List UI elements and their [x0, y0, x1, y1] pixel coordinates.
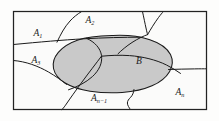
- set-partition-figure: A1 A2 A3 B An−1 An: [0, 0, 219, 121]
- label-an-minus-1-sub: n−1: [97, 97, 107, 104]
- label-a1-sub: 1: [39, 32, 42, 39]
- label-an-sub: n: [181, 91, 184, 98]
- label-a2-sub: 2: [91, 19, 94, 26]
- event-b-ellipse: [53, 35, 172, 92]
- figure-canvas: A1 A2 A3 B An−1 An: [0, 0, 219, 121]
- label-b-base: B: [136, 56, 142, 66]
- label-b: B: [136, 56, 142, 66]
- label-a3-sub: 3: [36, 59, 40, 66]
